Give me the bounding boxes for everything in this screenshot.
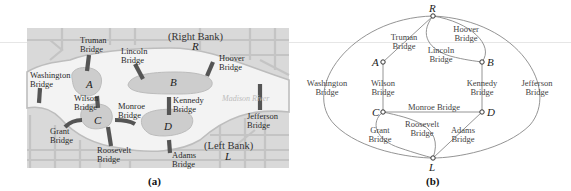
- edge-lincoln-label-2: Bridge: [429, 54, 452, 64]
- edge-jefferson-label-2: Bridge: [525, 87, 548, 97]
- node-b-label: B: [487, 56, 494, 68]
- map-lincoln-label-2: Bridge: [121, 55, 144, 65]
- left-bank-label: (Left Bank): [204, 140, 254, 152]
- edge-kennedy-label-2: Bridge: [470, 87, 493, 97]
- node-r-label: R: [428, 2, 436, 14]
- truman-bridge-shape: [87, 55, 89, 71]
- region-a-label: A: [85, 78, 93, 90]
- graph-figure: R A B C D L Truman Bridge Lincoln Bridge…: [307, 2, 553, 188]
- node-b: [480, 60, 484, 64]
- river-label: Madison River: [221, 94, 270, 103]
- map-washington-label-2: Bridge: [30, 79, 53, 89]
- region-b-label: B: [170, 76, 177, 88]
- edge-washington-label-2: Bridge: [315, 87, 338, 97]
- map-roosevelt-label-2: Bridge: [97, 154, 120, 164]
- edge-wilson-label-2: Bridge: [371, 87, 394, 97]
- map-jefferson-label-2: Bridge: [247, 120, 270, 130]
- adams-bridge-shape: [169, 140, 170, 153]
- edge-hoover-label-2: Bridge: [454, 33, 477, 43]
- washington-bridge-shape: [39, 88, 40, 103]
- map-adams-label-2: Bridge: [172, 159, 195, 169]
- node-c-label: C: [372, 106, 380, 118]
- region-d-label: D: [163, 120, 172, 132]
- figure-canvas: R A B C D L (Right Bank) (Left Bank) Mad…: [0, 0, 571, 191]
- edge-adams-label-2: Bridge: [451, 134, 474, 144]
- map-figure: R A B C D L (Right Bank) (Left Bank) Mad…: [27, 28, 289, 188]
- edge-grant-label-2: Bridge: [368, 134, 391, 144]
- node-a: [381, 60, 385, 64]
- edge-monroe-label: Monroe Bridge: [408, 102, 460, 112]
- edge-truman-label-2: Bridge: [392, 41, 415, 51]
- node-a-label: A: [371, 56, 379, 68]
- node-d: [480, 110, 484, 114]
- map-grant-label-2: Bridge: [50, 135, 73, 145]
- figure-a-caption: (a): [148, 175, 161, 188]
- figure-b-caption: (b): [426, 175, 440, 188]
- node-d-label: D: [486, 106, 495, 118]
- region-c-label: C: [94, 114, 102, 126]
- map-truman-label-2: Bridge: [80, 44, 103, 54]
- edge-roosevelt-label-2: Bridge: [410, 128, 433, 138]
- map-hoover-label-2: Bridge: [219, 62, 242, 72]
- region-l-label: L: [224, 150, 231, 162]
- node-l-label: L: [428, 161, 435, 173]
- map-monroe-label-2: Bridge: [118, 110, 141, 120]
- right-bank-label: (Right Bank): [168, 31, 224, 43]
- map-kennedy-label-2: Bridge: [173, 104, 196, 114]
- node-l: [431, 156, 435, 160]
- node-c: [381, 110, 385, 114]
- node-r: [431, 14, 435, 18]
- roosevelt-bridge-shape: [108, 127, 111, 146]
- map-wilson-label-2: Bridge: [74, 102, 97, 112]
